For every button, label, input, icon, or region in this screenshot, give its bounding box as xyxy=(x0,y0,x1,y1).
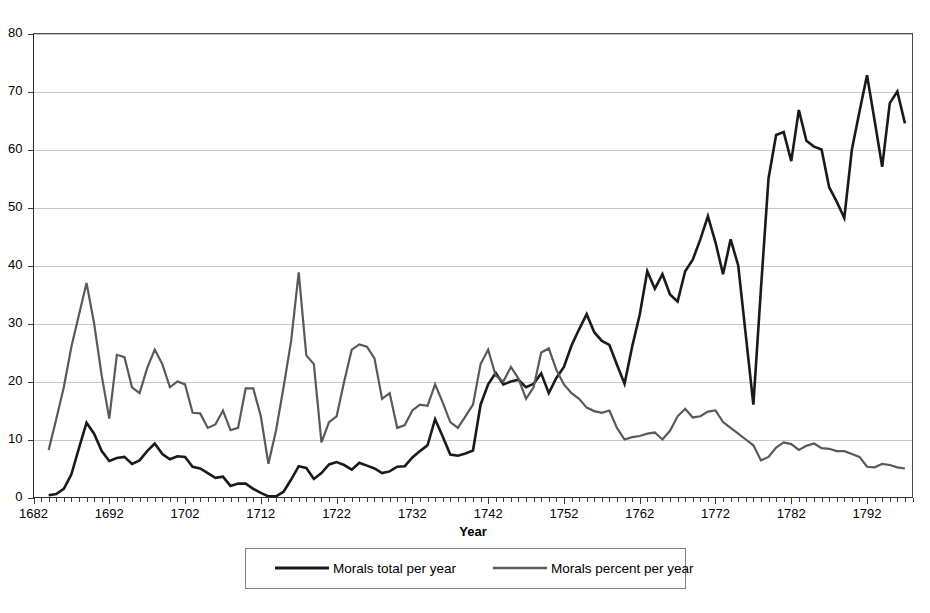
chart-legend: Morals total per yearMorals percent per … xyxy=(246,549,695,589)
y-tick-label: 40 xyxy=(8,257,22,272)
x-tick-label: 1762 xyxy=(625,506,654,521)
y-tick-label: 70 xyxy=(8,83,22,98)
y-tick-label: 50 xyxy=(8,199,22,214)
legend-label-1: Morals total per year xyxy=(333,561,457,576)
y-tick-label: 60 xyxy=(8,141,22,156)
x-axis-tick-marks xyxy=(35,498,914,504)
y-tick-label: 0 xyxy=(15,489,22,504)
line-chart: 01020304050607080 1682169217021712172217… xyxy=(0,0,930,613)
y-tick-label: 30 xyxy=(8,315,22,330)
x-tick-label: 1772 xyxy=(701,506,730,521)
data-series xyxy=(49,75,905,496)
legend-label-2: Morals percent per year xyxy=(551,561,694,576)
x-tick-label: 1692 xyxy=(95,506,124,521)
y-tick-label: 80 xyxy=(8,25,22,40)
series-line-1 xyxy=(49,75,905,496)
x-tick-label: 1712 xyxy=(246,506,275,521)
x-tick-label: 1732 xyxy=(398,506,427,521)
chart-container: 01020304050607080 1682169217021712172217… xyxy=(0,0,930,613)
x-tick-label: 1752 xyxy=(549,506,578,521)
x-tick-label: 1702 xyxy=(171,506,200,521)
plot-area-frame xyxy=(34,34,913,498)
x-axis-title: Year xyxy=(459,524,486,539)
x-tick-label: 1792 xyxy=(853,506,882,521)
x-axis-tick-labels: 1682169217021712172217321742175217621772… xyxy=(19,506,881,521)
y-tick-label: 20 xyxy=(8,373,22,388)
y-axis-tick-labels: 01020304050607080 xyxy=(8,25,33,504)
series-line-2 xyxy=(49,272,905,468)
x-tick-label: 1782 xyxy=(777,506,806,521)
x-tick-label: 1682 xyxy=(19,506,48,521)
gridlines xyxy=(34,35,913,441)
y-tick-label: 10 xyxy=(8,431,22,446)
x-tick-label: 1722 xyxy=(322,506,351,521)
x-tick-label: 1742 xyxy=(474,506,503,521)
